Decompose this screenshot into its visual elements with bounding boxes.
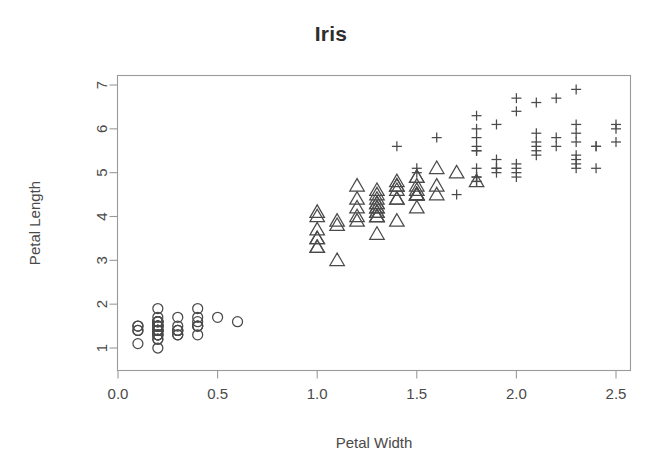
data-point-plus xyxy=(571,137,581,147)
data-point-plus xyxy=(571,128,581,138)
data-point-circle xyxy=(213,312,223,322)
data-point-plus xyxy=(571,150,581,160)
data-point-plus xyxy=(412,163,422,173)
data-point-circle xyxy=(233,317,243,327)
data-point-plus xyxy=(511,159,521,169)
data-point-plus xyxy=(472,146,482,156)
x-tick-label: 2.5 xyxy=(606,385,627,402)
data-point-triangle xyxy=(370,205,385,217)
data-point-plus xyxy=(491,155,501,165)
data-point-plus xyxy=(611,137,621,147)
data-points xyxy=(133,84,621,353)
x-axis: 0.00.51.01.52.02.5 xyxy=(108,371,627,402)
y-tick-label: 6 xyxy=(93,125,110,133)
data-point-triangle xyxy=(330,214,345,226)
x-tick-label: 0.5 xyxy=(207,385,228,402)
data-point-plus xyxy=(611,119,621,129)
y-tick-label: 4 xyxy=(93,212,110,220)
data-point-triangle xyxy=(310,205,325,217)
data-point-triangle xyxy=(390,183,405,195)
data-point-triangle xyxy=(310,240,325,252)
data-point-plus xyxy=(511,106,521,116)
data-point-plus xyxy=(531,128,541,138)
data-point-triangle xyxy=(410,200,425,212)
x-tick-label: 1.0 xyxy=(307,385,328,402)
data-point-plus xyxy=(472,124,482,134)
x-tick-label: 0.0 xyxy=(108,385,129,402)
series-virginica xyxy=(392,84,621,199)
data-point-triangle xyxy=(410,183,425,195)
series-versicolor xyxy=(310,161,484,266)
x-tick-label: 2.0 xyxy=(506,385,527,402)
x-axis-title: Petal Width xyxy=(336,434,413,451)
data-point-plus xyxy=(531,150,541,160)
data-point-triangle xyxy=(370,183,385,195)
data-point-plus xyxy=(571,119,581,129)
data-point-plus xyxy=(511,172,521,182)
data-point-triangle xyxy=(370,196,385,208)
data-point-triangle xyxy=(310,231,325,243)
y-tick-label: 3 xyxy=(93,256,110,264)
data-point-plus xyxy=(551,93,561,103)
data-point-triangle xyxy=(410,187,425,199)
scatter-plot: 0.00.51.01.52.02.5 1234567 Petal WidthPe… xyxy=(0,0,662,471)
data-point-triangle xyxy=(370,205,385,217)
data-point-plus xyxy=(571,84,581,94)
data-point-triangle xyxy=(410,187,425,199)
data-point-triangle xyxy=(390,179,405,191)
y-axis: 1234567 xyxy=(93,81,118,352)
y-tick-label: 2 xyxy=(93,300,110,308)
data-point-plus xyxy=(472,111,482,121)
data-point-triangle xyxy=(350,179,365,191)
y-tick-label: 7 xyxy=(93,81,110,89)
data-point-triangle xyxy=(410,187,425,199)
data-point-plus xyxy=(392,141,402,151)
data-point-plus xyxy=(531,98,541,108)
y-axis-title: Petal Length xyxy=(26,181,43,265)
data-point-triangle xyxy=(330,253,345,265)
x-tick-label: 1.5 xyxy=(406,385,427,402)
data-point-plus xyxy=(591,141,601,151)
data-point-plus xyxy=(472,176,482,186)
y-tick-label: 1 xyxy=(93,344,110,352)
data-point-triangle xyxy=(429,179,444,191)
data-point-triangle xyxy=(310,231,325,243)
data-point-triangle xyxy=(350,214,365,226)
data-point-plus xyxy=(591,163,601,173)
data-point-triangle xyxy=(449,165,464,177)
data-point-triangle xyxy=(370,196,385,208)
data-point-triangle xyxy=(370,209,385,221)
data-point-triangle xyxy=(429,187,444,199)
data-point-triangle xyxy=(429,161,444,173)
data-point-triangle xyxy=(390,192,405,204)
data-point-triangle xyxy=(410,187,425,199)
data-point-plus xyxy=(551,141,561,151)
data-point-plus xyxy=(432,133,442,143)
data-point-triangle xyxy=(330,218,345,230)
data-point-triangle xyxy=(370,200,385,212)
data-point-triangle xyxy=(390,179,405,191)
data-point-triangle xyxy=(370,227,385,239)
data-point-triangle xyxy=(410,179,425,191)
data-point-plus xyxy=(551,133,561,143)
y-tick-label: 5 xyxy=(93,168,110,176)
data-point-triangle xyxy=(410,187,425,199)
data-point-triangle xyxy=(390,174,405,186)
series-setosa xyxy=(133,304,243,353)
data-point-triangle xyxy=(390,214,405,226)
data-point-plus xyxy=(491,119,501,129)
data-point-triangle xyxy=(370,209,385,221)
data-point-plus xyxy=(531,141,541,151)
data-point-plus xyxy=(511,93,521,103)
data-point-plus xyxy=(452,190,462,200)
data-point-triangle xyxy=(310,222,325,234)
data-point-plus xyxy=(472,163,482,173)
data-point-plus xyxy=(571,159,581,169)
data-point-triangle xyxy=(350,209,365,221)
data-point-circle xyxy=(133,339,143,349)
data-point-plus xyxy=(491,168,501,178)
data-point-triangle xyxy=(390,192,405,204)
data-point-triangle xyxy=(350,192,365,204)
data-point-triangle xyxy=(310,209,325,221)
data-point-plus xyxy=(472,133,482,143)
